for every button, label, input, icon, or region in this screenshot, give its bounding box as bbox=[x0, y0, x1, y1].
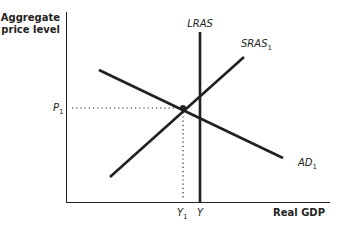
equilibrium-point bbox=[180, 105, 186, 111]
y-label: Y bbox=[197, 207, 204, 218]
p1-label-subscript: 1 bbox=[59, 108, 63, 116]
y-axis-label-line2: price level bbox=[1, 24, 60, 35]
ad-label: AD1 bbox=[297, 157, 317, 171]
sras-curve bbox=[110, 57, 244, 177]
x-axis-label: Real GDP bbox=[273, 207, 325, 218]
y1-label: Y1 bbox=[177, 207, 188, 221]
sras-label: SRAS1 bbox=[241, 38, 272, 52]
y-axis-label-line1: Aggregate bbox=[1, 12, 60, 23]
ad-as-chart: Aggregate price level Real GDP LRAS SRAS… bbox=[0, 0, 340, 229]
sras-label-subscript: 1 bbox=[267, 44, 271, 52]
ad-label-subscript: 1 bbox=[313, 163, 317, 171]
y1-label-subscript: 1 bbox=[183, 213, 187, 221]
ad-label-text: AD bbox=[297, 157, 313, 168]
p1-label: P1 bbox=[53, 102, 64, 116]
lras-label: LRAS bbox=[187, 18, 213, 29]
ad-curve bbox=[99, 70, 283, 158]
sras-label-text: SRAS bbox=[241, 38, 268, 49]
